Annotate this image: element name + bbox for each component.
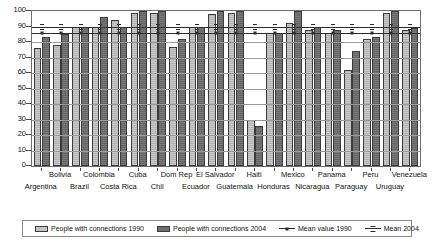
mean-line-marker	[409, 31, 412, 34]
bar	[275, 33, 283, 166]
bar	[247, 120, 255, 167]
y-axis-tick-label: 20	[18, 130, 26, 138]
bar	[81, 27, 89, 167]
legend-swatch-icon	[35, 226, 48, 232]
y-axis-tick-label: 100	[13, 6, 26, 14]
mean-line-marker	[408, 24, 412, 30]
bar-chart: 0102030405060708090100 ArgentinaBoliviaB…	[0, 0, 434, 249]
x-axis-tick	[41, 168, 42, 171]
legend-line-icon	[279, 226, 295, 232]
plot-area	[31, 10, 421, 167]
legend-label: Mean value 1990	[298, 225, 352, 233]
mean-line-marker	[79, 24, 83, 30]
y-axis-tick-label: 10	[18, 146, 26, 154]
x-axis-category-label: Dom Rep	[161, 170, 193, 179]
gridline	[32, 73, 420, 74]
mean-line-marker	[370, 31, 373, 34]
mean-line-marker	[117, 24, 121, 30]
legend-item[interactable]: People with connections 2004	[157, 225, 266, 233]
mean-line-marker	[331, 31, 334, 34]
bar	[255, 126, 263, 166]
bar	[325, 33, 333, 166]
x-axis-tick	[157, 168, 158, 171]
x-axis-category-label: Honduras	[257, 182, 290, 191]
legend-label: People with connections 1990	[51, 225, 144, 233]
mean-line-marker	[59, 24, 63, 30]
x-axis-category-label: Uruguay	[376, 182, 404, 191]
gridline	[32, 58, 420, 59]
bar	[286, 23, 294, 166]
legend-label: People with connections 2004	[173, 225, 266, 233]
mean-line-marker	[389, 24, 393, 30]
x-axis-category-label: Ecuador	[182, 182, 210, 191]
x-axis-category-label: Brazil	[70, 182, 89, 191]
mean-line-marker	[195, 31, 198, 34]
x-axis-tick	[351, 168, 352, 171]
x-axis-category-label: Nicaragua	[295, 182, 329, 191]
x-axis-category-label: Haiti	[247, 170, 262, 179]
x-axis-category-label: Bolivia	[49, 170, 71, 179]
bar	[92, 27, 100, 167]
y-axis-tick-label: 80	[18, 37, 26, 45]
mean-line-marker	[254, 31, 257, 34]
x-axis-category-label: Mexico	[281, 170, 305, 179]
mean-line-segment	[32, 27, 420, 28]
plot-area-wrapper: 0102030405060708090100	[0, 0, 434, 172]
bar	[266, 33, 274, 166]
legend-item[interactable]: Mean 2004	[365, 225, 419, 233]
bar	[305, 30, 313, 166]
mean-line-marker	[176, 24, 180, 30]
gridline	[32, 104, 420, 105]
x-axis-category-label: Peru	[363, 170, 379, 179]
x-axis-tick	[118, 168, 119, 171]
mean-line-marker	[118, 31, 121, 34]
legend-item[interactable]: Mean value 1990	[279, 225, 352, 233]
bar	[61, 34, 69, 166]
x-axis-category-label: Costa Rica	[100, 182, 137, 191]
x-axis-tick	[390, 168, 391, 171]
mean-line-marker	[176, 31, 179, 34]
mean-line-marker	[312, 31, 315, 34]
bar	[34, 48, 42, 166]
bar	[120, 27, 128, 167]
mean-line-segment	[32, 33, 420, 34]
y-axis-tick-label: 90	[18, 22, 26, 30]
mean-line-marker	[370, 24, 374, 30]
mean-line-marker	[40, 24, 44, 30]
mean-line-marker	[292, 24, 296, 30]
bar	[208, 14, 216, 166]
x-axis-tick	[235, 168, 236, 171]
bar	[72, 27, 80, 167]
bar	[197, 27, 205, 167]
x-axis-category-label: Paraguay	[335, 182, 367, 191]
bar	[402, 30, 410, 166]
mean-line-marker	[331, 24, 335, 30]
mean-line-marker	[273, 31, 276, 34]
x-axis-tick	[80, 168, 81, 171]
legend-item[interactable]: People with connections 1990	[35, 225, 144, 233]
mean-line-marker	[195, 24, 199, 30]
legend-line-icon	[365, 226, 381, 232]
mean-line-marker	[98, 24, 102, 30]
mean-line-marker	[253, 24, 257, 30]
legend-label: Mean 2004	[384, 225, 419, 233]
mean-line-marker	[137, 24, 141, 30]
bar	[333, 30, 341, 166]
mean-line-marker	[215, 31, 218, 34]
gridline	[32, 89, 420, 90]
mean-line-marker	[311, 24, 315, 30]
bar	[352, 51, 360, 166]
mean-line-marker	[351, 31, 354, 34]
mean-line-marker	[214, 24, 218, 30]
x-axis-category-label: Cuba	[129, 170, 147, 179]
mean-line-marker	[137, 31, 140, 34]
x-axis-category-label: Colombia	[83, 170, 115, 179]
mean-line-marker	[40, 31, 43, 34]
y-axis-tick-label: 40	[18, 99, 26, 107]
gridline	[32, 42, 420, 43]
gridline	[32, 135, 420, 136]
x-axis-category-label: Panama	[318, 170, 346, 179]
y-axis-tick-label: 60	[18, 68, 26, 76]
mean-line-marker	[350, 24, 354, 30]
x-axis-category-label: Argentina	[25, 182, 57, 191]
